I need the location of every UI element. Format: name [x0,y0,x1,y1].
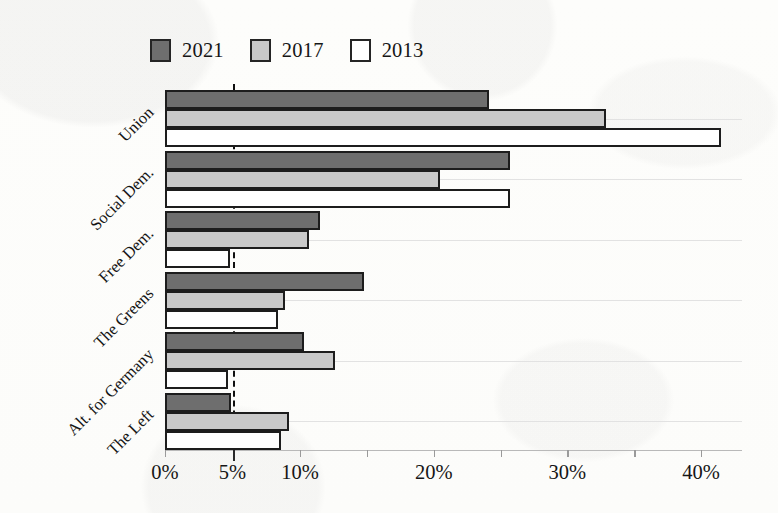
legend-swatch-2013 [350,39,371,62]
legend-entry-2013: 2013 [350,39,424,62]
legend-label-2021: 2021 [182,39,224,62]
legend-swatch-2021 [150,39,171,62]
bar-2017-the-greens [165,291,285,310]
x-tick-label-20pct: 20% [415,461,453,484]
x-tick-minor-25 [501,450,502,457]
bar-2021-the-greens [165,272,364,291]
bar-2017-free-dem [165,230,309,249]
bar-2021-alt-for-germany [165,332,304,351]
bar-2021-union [165,90,489,109]
bar-2021-the-left [165,393,231,412]
bar-2017-social-dem [165,170,440,189]
legend-swatch-2017 [250,39,271,62]
x-tick-minor-35 [634,450,635,457]
bar-2013-union [165,128,721,147]
bar-2013-free-dem [165,249,230,268]
x-axis-line [165,450,742,451]
bar-2013-the-greens [165,310,278,329]
legend-entry-2017: 2017 [250,39,324,62]
bar-2017-union [165,109,606,128]
x-tick-40pct [701,450,702,457]
x-tick-label-30pct: 30% [549,461,587,484]
x-tick-label-40pct: 40% [682,461,720,484]
chart-legend: 202120172013 [150,36,449,64]
bar-2013-social-dem [165,189,510,208]
bar-2021-free-dem [165,211,320,230]
bar-group-social-dem [165,151,722,208]
bar-group-the-greens [165,272,722,329]
plot-area [165,88,722,450]
bar-group-the-left [165,393,722,450]
x-tick-10pct [300,450,301,457]
legend-entry-2021: 2021 [150,39,224,62]
x-tick-label-5pct: 5% [219,461,246,484]
bar-2017-alt-for-germany [165,351,335,370]
bar-2017-the-left [165,412,289,431]
x-tick-0pct [165,450,166,457]
x-tick-5pct [233,450,235,461]
chart-page: 202120172013 UnionSocial Dem.Free Dem.Th… [0,0,778,513]
bar-2013-alt-for-germany [165,370,228,389]
x-tick-20pct [434,450,435,457]
bar-group-free-dem [165,211,722,268]
bar-2021-social-dem [165,151,510,170]
x-tick-label-10pct: 10% [281,461,319,484]
bar-group-union [165,90,722,147]
x-tick-30pct [567,450,568,457]
bar-group-alt-for-germany [165,332,722,389]
legend-label-2013: 2013 [382,39,424,62]
bar-2013-the-left [165,431,281,450]
x-tick-label-0pct: 0% [151,461,178,484]
x-tick-minor-15 [367,450,368,457]
legend-label-2017: 2017 [282,39,324,62]
